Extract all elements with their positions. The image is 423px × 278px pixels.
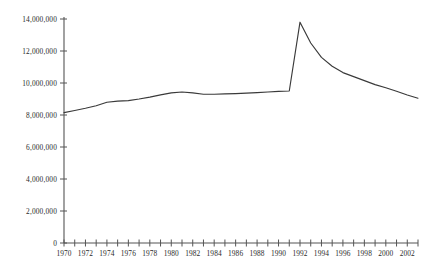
x-axis-tick-label: 1990	[271, 249, 286, 258]
x-axis-tick-label: 1992	[292, 249, 307, 258]
y-axis-tick-label: 0	[53, 239, 57, 248]
y-axis-tick-label: 2,000,000	[26, 207, 57, 216]
x-axis-tick-label: 2002	[400, 249, 415, 258]
line-chart: 02,000,0004,000,0006,000,0008,000,00010,…	[0, 0, 423, 278]
data-line-series-1	[64, 22, 418, 112]
y-axis-tick-label: 8,000,000	[26, 111, 57, 120]
x-axis-tick-label: 1986	[228, 249, 243, 258]
x-axis-tick-label: 1982	[185, 249, 200, 258]
chart-canvas: 02,000,0004,000,0006,000,0008,000,00010,…	[0, 0, 423, 278]
x-axis-tick-labels: 1970197219741976197819801982198419861988…	[56, 249, 415, 258]
y-axis-tick-labels: 02,000,0004,000,0006,000,0008,000,00010,…	[22, 15, 57, 248]
y-axis-tick-label: 4,000,000	[26, 175, 57, 184]
x-axis-tick-label: 1988	[249, 249, 264, 258]
x-axis-tick-label: 1974	[99, 249, 114, 258]
y-axis-tick-label: 12,000,000	[22, 47, 57, 56]
x-axis-tick-label: 1980	[164, 249, 179, 258]
x-axis-tick-label: 1976	[121, 249, 136, 258]
y-axis-tick-label: 6,000,000	[26, 143, 57, 152]
x-axis-tick-label: 1972	[78, 249, 93, 258]
x-axis-tick-label: 1998	[357, 249, 372, 258]
x-axis-tick-label: 1994	[314, 249, 329, 258]
y-axis-tick-label: 14,000,000	[22, 15, 57, 24]
x-axis-tick-label: 1978	[142, 249, 157, 258]
x-axis-tick-label: 2000	[378, 249, 393, 258]
x-axis-tick-label: 1984	[207, 249, 222, 258]
y-axis-tick-label: 10,000,000	[22, 79, 57, 88]
data-series-group	[64, 22, 418, 112]
x-axis-tick-label: 1970	[56, 249, 71, 258]
x-axis-tick-label: 1996	[335, 249, 350, 258]
